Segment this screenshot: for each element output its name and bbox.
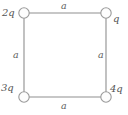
side-label-right: a <box>98 50 104 60</box>
charge-square-figure: 2q q 3q 4q a a a a <box>0 0 128 115</box>
charge-label-top-right: q <box>113 14 119 24</box>
square-edges <box>24 13 106 97</box>
charge-label-top-left: 2q <box>2 8 15 18</box>
charge-node-top-right <box>101 8 111 18</box>
side-label-bottom: a <box>61 101 67 111</box>
side-label-top: a <box>61 1 67 11</box>
charge-node-top-left <box>19 8 29 18</box>
charge-label-bottom-left: 3q <box>1 83 14 93</box>
charge-node-bottom-left <box>19 92 29 102</box>
charge-label-bottom-right: 4q <box>110 84 123 94</box>
side-label-left: a <box>13 50 19 60</box>
figure-canvas <box>0 0 128 115</box>
